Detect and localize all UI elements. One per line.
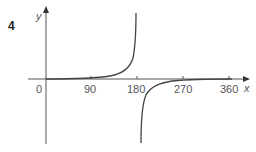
chart: 0 90 180 270 360 x y — [0, 0, 256, 152]
x-tick-label-360: 360 — [220, 83, 238, 95]
y-axis-label: y — [35, 10, 43, 22]
origin-label: 0 — [36, 83, 42, 95]
curve-upper-branch — [46, 13, 136, 79]
y-axis-arrow-icon — [43, 6, 49, 13]
x-tick-label-270: 270 — [174, 83, 192, 95]
x-tick-label-90: 90 — [84, 83, 96, 95]
x-axis-label: x — [243, 82, 250, 94]
x-tick-label-180: 180 — [127, 83, 145, 95]
